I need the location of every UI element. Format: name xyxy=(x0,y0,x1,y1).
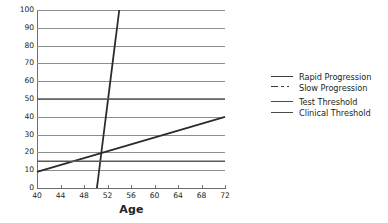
y-tick-label: 90 xyxy=(25,24,34,32)
gridline-70 xyxy=(37,63,225,64)
gridline-30 xyxy=(37,135,225,136)
x-tick-label: 52 xyxy=(103,191,112,200)
x-tick-mark xyxy=(178,185,179,189)
x-tick-label: 48 xyxy=(79,191,88,200)
x-tick-mark xyxy=(108,185,109,189)
x-tick-label: 56 xyxy=(126,191,135,200)
chart-legend: Rapid Progression Slow Progression Test … xyxy=(271,71,388,118)
x-axis-title: Age xyxy=(37,203,226,216)
gridline-90 xyxy=(37,28,225,29)
plot-area xyxy=(37,10,225,188)
legend-item-slow-progression[interactable]: Slow Progression xyxy=(271,82,388,93)
x-tick-label: 72 xyxy=(220,191,229,200)
y-tick-label: 80 xyxy=(25,42,34,50)
legend-line-swatch-solid-icon xyxy=(271,107,293,118)
legend-label: Rapid Progression xyxy=(299,72,371,82)
y-tick-label: 30 xyxy=(25,131,34,139)
legend-label: Clinical Threshold xyxy=(299,108,371,118)
gridline-10 xyxy=(37,170,225,171)
x-tick-mark xyxy=(131,185,132,189)
y-tick-label: 20 xyxy=(25,148,34,156)
x-tick-mark xyxy=(61,185,62,189)
y-tick-label: 60 xyxy=(25,77,34,85)
y-tick-label: 100 xyxy=(20,6,34,14)
x-tick-mark xyxy=(202,185,203,189)
x-tick-mark xyxy=(84,185,85,189)
gridline-100 xyxy=(37,10,225,11)
gridline-60 xyxy=(37,81,225,82)
x-tick-mark xyxy=(37,185,38,189)
legend-line-swatch-dashdot-icon xyxy=(271,82,293,93)
legend-label: Test Threshold xyxy=(299,97,357,107)
legend-label: Slow Progression xyxy=(299,83,367,93)
legend-item-rapid-progression[interactable]: Rapid Progression xyxy=(271,71,388,82)
y-tick-label: 70 xyxy=(25,59,34,67)
legend-item-clinical-threshold[interactable]: Clinical Threshold xyxy=(271,107,388,118)
y-tick-label: 10 xyxy=(25,166,34,174)
legend-line-swatch-solid-icon xyxy=(271,96,293,107)
gridline-50 xyxy=(37,99,225,100)
x-tick-mark xyxy=(225,185,226,189)
chart-figure: 100 90 80 70 60 50 40 30 20 10 0 40 44 4… xyxy=(0,0,388,223)
gridline-20 xyxy=(37,152,225,153)
x-tick-label: 60 xyxy=(150,191,159,200)
x-tick-label: 44 xyxy=(56,191,65,200)
gridline-80 xyxy=(37,46,225,47)
legend-line-swatch-solid-icon xyxy=(271,71,293,82)
y-tick-label: 40 xyxy=(25,113,34,121)
x-tick-label: 40 xyxy=(32,191,41,200)
gridline-40 xyxy=(37,117,225,118)
y-tick-label: 50 xyxy=(25,95,34,103)
x-tick-mark xyxy=(155,185,156,189)
x-tick-label: 68 xyxy=(197,191,206,200)
legend-item-test-threshold[interactable]: Test Threshold xyxy=(271,96,388,107)
x-tick-label: 64 xyxy=(173,191,182,200)
